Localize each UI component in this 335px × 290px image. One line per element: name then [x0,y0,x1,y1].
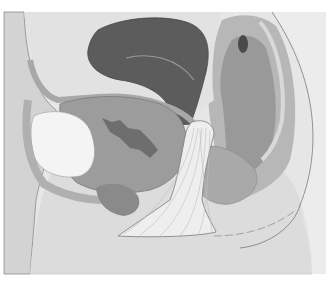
anatomical-illustration [0,0,335,290]
rectal-cavity [238,35,248,53]
figure-caption [0,281,335,290]
